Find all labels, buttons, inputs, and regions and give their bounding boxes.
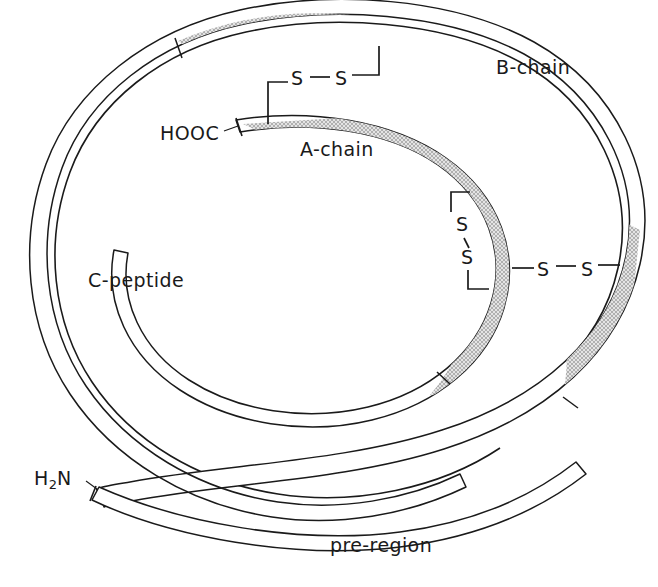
diagram-canvas [0, 0, 658, 587]
sulfur-atom-bond3-left: S [537, 260, 549, 279]
label-a-chain: A-chain [300, 140, 374, 159]
proinsulin-diagram: B-chain A-chain C-peptide pre-region HOO… [0, 0, 658, 587]
label-pre-region: pre-region [330, 536, 432, 555]
sulfur-atom-bond2-bottom: S [461, 248, 473, 267]
label-n-terminus-h2n: H2N [34, 469, 72, 491]
hooc-leader-line [224, 126, 238, 131]
label-c-peptide: C-peptide [88, 271, 184, 290]
disulfide-bond-a20-b19 [512, 265, 620, 268]
sulfur-atom-bond3-right: S [581, 260, 593, 279]
h2n-subscript: 2 [49, 477, 57, 492]
b-chain-end-tick [563, 397, 578, 408]
h2n-leader-line [86, 481, 97, 489]
h2n-h: H [34, 467, 49, 489]
sulfur-atom-bond2-top: S [456, 215, 468, 234]
label-c-terminus-hooc: HOOC [160, 124, 219, 143]
h2n-n: N [57, 467, 72, 489]
sulfur-atom-bond1-right: S [335, 69, 347, 88]
disulfide-bond-a7-b7 [268, 46, 379, 124]
label-b-chain: B-chain [496, 58, 570, 77]
sulfur-atom-bond1-left: S [291, 69, 303, 88]
